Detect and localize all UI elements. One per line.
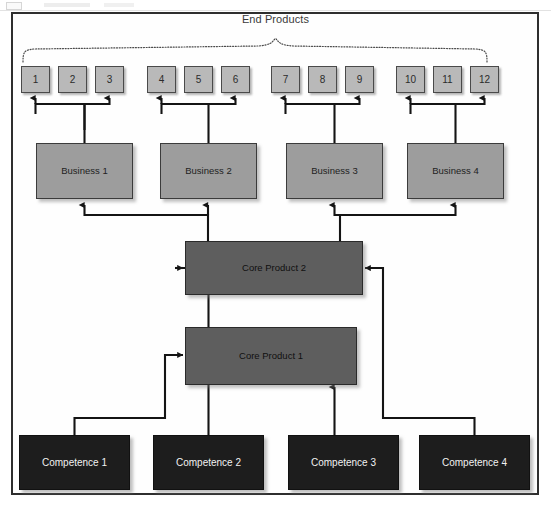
- end-product-11: 11: [433, 66, 462, 93]
- end-product-6: 6: [221, 66, 250, 93]
- end-product-5: 5: [184, 66, 213, 93]
- core-product-node-cp1-label: Core Product 1: [239, 351, 303, 362]
- scan-artifact-mark-3: [104, 3, 134, 7]
- competence-node-c1: Competence 1: [19, 435, 130, 490]
- scan-artifact-strip: [0, 0, 551, 11]
- end-product-11-label: 11: [442, 74, 452, 86]
- end-product-8-label: 8: [320, 74, 326, 86]
- end-product-4: 4: [147, 66, 176, 93]
- competence-node-c3: Competence 3: [288, 435, 399, 490]
- business-node-b4: Business 4: [407, 143, 504, 199]
- core-product-node-cp1: Core Product 1: [185, 327, 357, 385]
- scan-artifact-mark-2: [44, 3, 90, 7]
- end-product-10-label: 10: [405, 74, 416, 86]
- competence-node-c3-label: Competence 3: [311, 457, 376, 469]
- end-product-12: 12: [470, 66, 499, 93]
- business-node-b4-label: Business 4: [432, 166, 478, 177]
- end-product-3-label: 3: [107, 74, 113, 86]
- scan-artifact-mark-1: [6, 2, 22, 10]
- end-product-1: 1: [21, 66, 50, 93]
- business-node-b1-label: Business 1: [61, 166, 107, 177]
- end-product-10: 10: [396, 66, 425, 93]
- end-product-9: 9: [345, 66, 374, 93]
- core-product-node-cp2: Core Product 2: [185, 241, 363, 295]
- competence-node-c1-label: Competence 1: [42, 457, 107, 469]
- business-node-b2: Business 2: [160, 143, 257, 199]
- business-node-b1: Business 1: [36, 143, 133, 199]
- end-product-8: 8: [308, 66, 337, 93]
- competence-node-c2: Competence 2: [153, 435, 264, 490]
- end-product-12-label: 12: [479, 74, 490, 86]
- end-product-5-label: 5: [196, 74, 202, 86]
- end-product-7-label: 7: [283, 74, 289, 86]
- core-product-node-cp2-label: Core Product 2: [242, 263, 306, 274]
- end-product-3: 3: [95, 66, 124, 93]
- end-product-2: 2: [58, 66, 87, 93]
- competence-node-c4-label: Competence 4: [442, 457, 507, 469]
- end-product-1-label: 1: [33, 74, 39, 86]
- end-product-2-label: 2: [70, 74, 76, 86]
- business-node-b2-label: Business 2: [185, 166, 231, 177]
- business-node-b3: Business 3: [286, 143, 383, 199]
- end-products-label: End Products: [0, 13, 551, 25]
- competence-node-c4: Competence 4: [419, 435, 530, 490]
- end-product-4-label: 4: [159, 74, 165, 86]
- end-product-6-label: 6: [233, 74, 239, 86]
- end-product-7: 7: [271, 66, 300, 93]
- competence-node-c2-label: Competence 2: [176, 457, 241, 469]
- business-node-b3-label: Business 3: [311, 166, 357, 177]
- end-product-9-label: 9: [357, 74, 363, 86]
